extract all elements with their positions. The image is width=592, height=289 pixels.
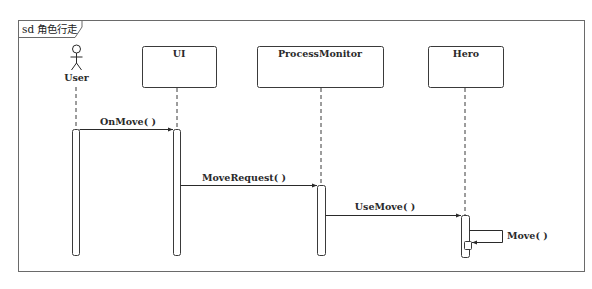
activation-bar <box>174 130 181 256</box>
actor-label-user: User <box>64 72 90 83</box>
message-label: OnMove( ) <box>100 116 156 127</box>
actor-icon <box>71 45 83 70</box>
lifeline-ui: UI <box>143 47 217 256</box>
message-usemove: UseMove( ) <box>326 201 462 216</box>
message-label: UseMove( ) <box>355 201 415 212</box>
message-moverequest: MoveRequest( ) <box>181 172 318 186</box>
frame-label: sd 角色行走 <box>22 23 78 35</box>
object-label-processmonitor: ProcessMonitor <box>278 48 363 59</box>
message-move-self: Move( ) <box>470 230 548 243</box>
message-onmove: OnMove( ) <box>80 116 174 130</box>
object-label-ui: UI <box>173 48 186 59</box>
object-label-hero: Hero <box>453 48 479 59</box>
activation-bar <box>462 216 470 258</box>
activation-bar <box>73 130 80 256</box>
lifeline-processmonitor: ProcessMonitor <box>258 47 384 256</box>
nested-activation <box>465 242 472 250</box>
self-arrow-icon <box>470 231 503 243</box>
message-label: MoveRequest( ) <box>202 172 286 183</box>
lifeline-user: User <box>64 45 90 256</box>
sequence-diagram: sd 角色行走 User UI ProcessMonitor Hero <box>0 0 592 289</box>
message-label: Move( ) <box>507 230 548 241</box>
lifeline-hero: Hero <box>429 47 504 258</box>
activation-bar <box>318 186 326 256</box>
